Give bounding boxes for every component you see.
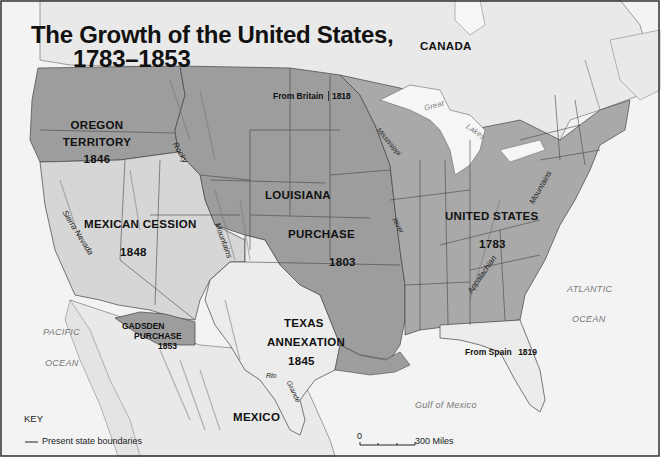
gadsden-year: 1853: [122, 341, 202, 351]
label-from-britain: From Britain 1818: [273, 91, 351, 101]
label-united-states: UNITED STATES: [445, 208, 539, 225]
label-louisiana: LOUISIANA: [265, 187, 331, 204]
gadsden-name-line2: PURCHASE: [122, 331, 202, 341]
oregon-name-line2: TERRITORY: [52, 134, 142, 151]
from-spain-year: 1819: [518, 347, 537, 357]
from-britain-text: From Britain: [273, 91, 324, 101]
label-annexation: ANNEXATION: [267, 334, 345, 351]
scale-start: 0: [357, 431, 362, 441]
label-gadsden: GADSDEN PURCHASE 1853: [122, 321, 202, 351]
label-pacific-ocean: OCEAN: [45, 358, 79, 368]
label-atlantic-ocean: OCEAN: [572, 314, 606, 324]
label-united-states-year: 1783: [479, 236, 506, 253]
gadsden-name-line1: GADSDEN: [122, 321, 202, 331]
label-texas-year: 1845: [288, 353, 315, 370]
map-title-line1: The Growth of the United States,: [31, 23, 393, 47]
label-pacific: PACIFIC: [43, 327, 80, 337]
oregon-year: 1846: [52, 151, 142, 168]
key-title: KEY: [24, 413, 43, 424]
label-mexico: MEXICO: [233, 409, 280, 426]
oregon-name-line1: OREGON: [52, 117, 142, 134]
map-title-line2: 1783–1853: [73, 47, 190, 71]
key-item-state-boundaries: Present state boundaries: [42, 436, 142, 446]
from-britain-year: 1818: [328, 91, 351, 101]
scale-end: 300 Miles: [415, 436, 454, 446]
label-purchase: PURCHASE: [288, 226, 355, 243]
label-canada: CANADA: [420, 38, 472, 55]
label-louisiana-year: 1803: [329, 254, 356, 271]
label-gulf-of-mexico: Gulf of Mexico: [415, 400, 477, 410]
label-from-spain: From Spain 1819: [465, 347, 537, 357]
label-mexican-cession: MEXICAN CESSION: [84, 216, 197, 233]
label-atlantic: ATLANTIC: [567, 284, 612, 294]
from-spain-text: From Spain: [465, 347, 512, 357]
label-mexican-cession-year: 1848: [120, 244, 147, 261]
label-rio: Rio: [266, 372, 277, 379]
label-oregon-territory: OREGON TERRITORY 1846: [52, 117, 142, 168]
label-texas: TEXAS: [284, 315, 324, 332]
